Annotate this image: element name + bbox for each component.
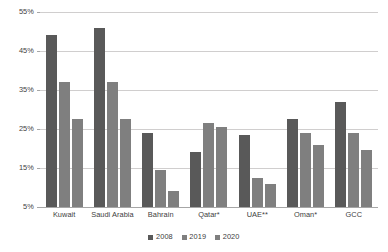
- category-label: Qatar*: [185, 210, 233, 220]
- bar: [203, 123, 214, 207]
- bar: [142, 133, 153, 207]
- legend-item[interactable]: 2019: [182, 233, 206, 241]
- bar: [59, 82, 70, 207]
- y-axis-tick-label: 5%: [0, 203, 34, 211]
- bar: [287, 119, 298, 207]
- y-axis-tick-label: 15%: [0, 164, 34, 172]
- bar: [239, 135, 250, 207]
- category-label: UAE**: [233, 210, 281, 220]
- bar-chart: 5%15%25%35%45%55% KuwaitSaudi ArabiaBahr…: [0, 0, 388, 252]
- bar: [94, 28, 105, 207]
- bar: [348, 133, 359, 207]
- bar: [335, 102, 346, 207]
- legend-label: 2020: [223, 233, 240, 241]
- y-axis-tick-label: 45%: [0, 47, 34, 55]
- bar-group: [185, 12, 233, 207]
- y-axis-tick-label: 55%: [0, 8, 34, 16]
- bar: [155, 170, 166, 207]
- bar-group: [233, 12, 281, 207]
- bar-group: [281, 12, 329, 207]
- bar: [190, 152, 201, 207]
- legend-label: 2008: [156, 233, 173, 241]
- bar: [107, 82, 118, 207]
- category-label: Oman*: [281, 210, 329, 220]
- legend-swatch-icon: [148, 235, 153, 240]
- category-label: Bahrain: [137, 210, 185, 220]
- legend-swatch-icon: [182, 235, 187, 240]
- legend-label: 2019: [189, 233, 206, 241]
- gridline: [40, 207, 378, 208]
- bar: [300, 133, 311, 207]
- bar-group: [88, 12, 136, 207]
- bar-group: [137, 12, 185, 207]
- bar-group: [330, 12, 378, 207]
- bars-layer: [40, 12, 378, 207]
- legend-swatch-icon: [215, 235, 220, 240]
- bar: [265, 184, 276, 207]
- bar: [313, 145, 324, 207]
- legend-item[interactable]: 2008: [148, 233, 172, 241]
- bar: [252, 178, 263, 207]
- bar: [72, 119, 83, 207]
- legend-item[interactable]: 2020: [215, 233, 239, 241]
- category-label: Saudi Arabia: [88, 210, 136, 220]
- y-axis-tick-label: 25%: [0, 125, 34, 133]
- y-axis-tick-mark: [37, 207, 40, 208]
- bar: [216, 127, 227, 207]
- bar: [46, 35, 57, 207]
- bar-group: [40, 12, 88, 207]
- category-label: Kuwait: [40, 210, 88, 220]
- bar: [361, 150, 372, 207]
- bar: [120, 119, 131, 207]
- category-axis: KuwaitSaudi ArabiaBahrainQatar*UAE**Oman…: [40, 210, 378, 224]
- bar: [168, 191, 179, 207]
- chart-legend: 200820192020: [0, 233, 388, 241]
- y-axis-tick-label: 35%: [0, 86, 34, 94]
- category-label: GCC: [330, 210, 378, 220]
